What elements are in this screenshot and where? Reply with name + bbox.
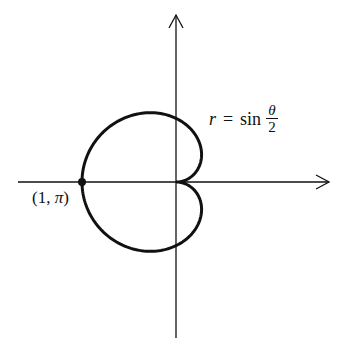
fraction-numerator: θ — [266, 103, 278, 117]
polar-graph-figure: r = sin θ 2 (1, π) — [0, 0, 342, 353]
fraction-denominator: 2 — [266, 120, 278, 134]
point-label-pi: π — [55, 188, 64, 207]
point-1-pi-dot — [78, 178, 86, 186]
equation-fraction: θ 2 — [266, 103, 278, 134]
equation-lhs: r — [209, 109, 216, 130]
point-label: (1, π) — [32, 188, 69, 208]
equation-equals: = — [223, 109, 233, 130]
point-label-close: ) — [63, 188, 69, 207]
point-label-open: (1, — [32, 188, 55, 207]
equation-func: sin — [240, 109, 261, 130]
plot-canvas — [0, 0, 342, 353]
